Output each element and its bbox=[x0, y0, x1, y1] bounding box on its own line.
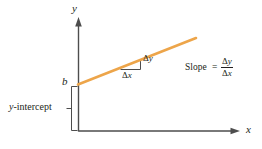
slope-denominator-variable: x bbox=[228, 68, 232, 78]
delta-x-variable: x bbox=[128, 70, 132, 80]
slope-numerator-variable: y bbox=[228, 56, 232, 66]
slope-fraction-numerator: Δy bbox=[221, 56, 233, 66]
y-axis-arrowhead bbox=[75, 17, 82, 27]
slope-equals-sign: = bbox=[212, 63, 217, 73]
slope-fraction: Δy Δx bbox=[221, 56, 233, 79]
delta-y-label: Δy bbox=[143, 54, 153, 63]
y-intercept-point-label: b bbox=[62, 76, 68, 87]
y-intercept-label-text: -intercept bbox=[13, 101, 51, 112]
slope-intercept-diagram: y x b y-intercept Δy Δx Slope = Δy Δx bbox=[0, 0, 262, 149]
slope-fraction-denominator: Δx bbox=[221, 68, 233, 78]
y-axis-label: y bbox=[72, 3, 77, 14]
delta-y-variable: y bbox=[149, 53, 153, 63]
y-intercept-brace bbox=[67, 87, 78, 131]
x-axis-arrowhead bbox=[231, 128, 241, 135]
x-axis-label: x bbox=[246, 124, 251, 135]
slope-word-label: Slope bbox=[185, 63, 207, 73]
delta-x-label: Δx bbox=[122, 71, 132, 80]
y-intercept-label: y-intercept bbox=[9, 102, 52, 112]
sloped-line bbox=[78, 38, 196, 85]
